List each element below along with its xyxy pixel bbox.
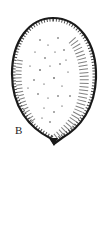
panel-label: B [15, 124, 22, 136]
